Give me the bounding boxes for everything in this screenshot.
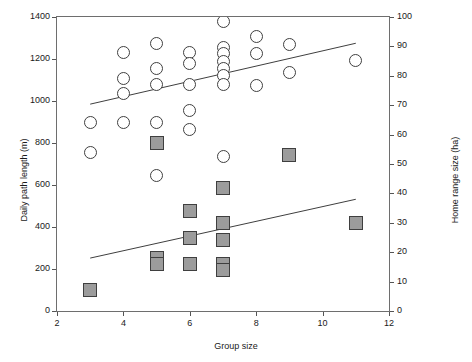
y-tick-label-right: 10 <box>397 276 427 286</box>
y-tick-label-right: 20 <box>397 246 427 256</box>
data-point-square <box>183 257 197 271</box>
data-point-circle <box>217 150 230 163</box>
y-tick-label-right: 0 <box>397 305 427 315</box>
data-point-square <box>183 231 197 245</box>
y-tick-label-right: 30 <box>397 217 427 227</box>
data-point-circle <box>283 38 296 51</box>
data-point-square <box>216 263 230 277</box>
y-tick-label-left: 1000 <box>18 95 50 105</box>
x-tick-label: 12 <box>374 318 404 328</box>
data-point-circle <box>217 16 230 28</box>
y-tick-label-left: 200 <box>18 263 50 273</box>
y-tick-label-left: 1200 <box>18 53 50 63</box>
y-tick-label-right: 60 <box>397 129 427 139</box>
data-point-circle <box>84 116 97 129</box>
data-point-square <box>150 257 164 271</box>
data-point-circle <box>183 57 196 70</box>
y-tick-label-right: 100 <box>397 11 427 21</box>
y-tick-label-right: 70 <box>397 99 427 109</box>
data-point-circle <box>217 78 230 91</box>
scatter-chart: Daily path length (m) Home range size (h… <box>0 0 472 362</box>
y-tick-mark-right <box>390 223 394 224</box>
y-tick-mark-right <box>390 252 394 253</box>
data-point-square <box>282 148 296 162</box>
data-point-square <box>216 181 230 195</box>
data-point-square <box>83 283 97 297</box>
data-point-circle <box>84 146 97 159</box>
data-point-circle <box>150 78 163 91</box>
data-point-square <box>216 233 230 247</box>
y-tick-mark-right <box>390 76 394 77</box>
x-tick-label: 2 <box>42 318 72 328</box>
x-axis-label: Group size <box>0 341 472 351</box>
data-point-circle <box>250 79 263 92</box>
data-point-circle <box>150 37 163 50</box>
x-tick-mark <box>57 312 58 316</box>
y-tick-label-right: 40 <box>397 187 427 197</box>
y-tick-label-right: 80 <box>397 70 427 80</box>
data-point-circle <box>283 66 296 79</box>
y-tick-mark-right <box>390 164 394 165</box>
data-point-circle <box>150 116 163 129</box>
y-tick-label-left: 1400 <box>18 11 50 21</box>
data-point-circle <box>117 116 130 129</box>
x-tick-mark <box>190 312 191 316</box>
x-tick-mark <box>323 312 324 316</box>
data-point-circle <box>117 87 130 100</box>
y-tick-label-left: 0 <box>18 305 50 315</box>
data-point-circle <box>183 78 196 91</box>
y-tick-label-left: 400 <box>18 221 50 231</box>
y-tick-mark-right <box>390 46 394 47</box>
y-tick-label-left: 800 <box>18 137 50 147</box>
data-point-square <box>349 216 363 230</box>
y-axis-label-right: Home range size (ha) <box>450 110 460 250</box>
y-tick-mark-right <box>390 135 394 136</box>
x-tick-label: 10 <box>308 318 338 328</box>
data-point-circle <box>250 47 263 60</box>
y-tick-label-right: 90 <box>397 40 427 50</box>
data-point-square <box>150 136 164 150</box>
data-point-square <box>183 204 197 218</box>
data-point-circle <box>150 62 163 75</box>
x-tick-mark <box>123 312 124 316</box>
y-tick-mark-right <box>390 282 394 283</box>
data-point-circle <box>349 54 362 67</box>
x-tick-label: 8 <box>241 318 271 328</box>
data-point-circle <box>117 46 130 59</box>
y-tick-mark-right <box>390 311 394 312</box>
x-tick-label: 6 <box>175 318 205 328</box>
data-point-square <box>216 216 230 230</box>
x-tick-mark <box>256 312 257 316</box>
y-tick-label-right: 50 <box>397 158 427 168</box>
y-tick-mark-right <box>390 17 394 18</box>
y-tick-mark-right <box>390 193 394 194</box>
plot-area <box>56 16 390 312</box>
y-tick-label-left: 600 <box>18 179 50 189</box>
x-tick-mark <box>389 312 390 316</box>
y-tick-mark-right <box>390 105 394 106</box>
x-tick-label: 4 <box>108 318 138 328</box>
